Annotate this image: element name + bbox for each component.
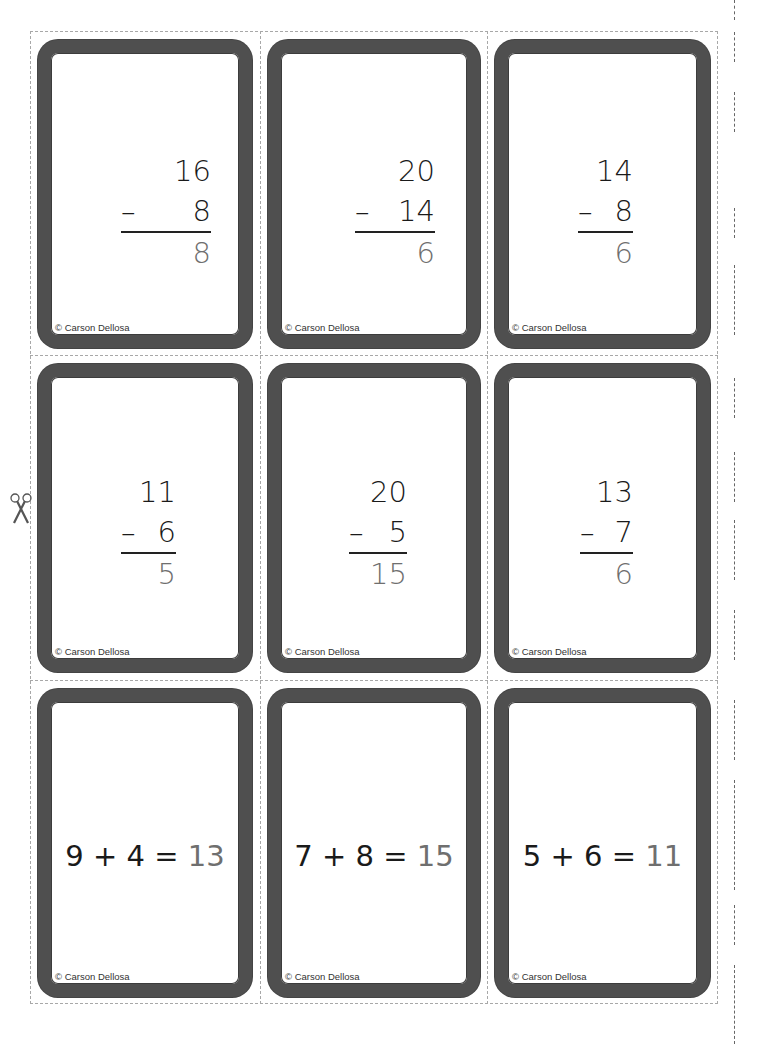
edge-cut-mark: [734, 520, 735, 580]
subtraction-problem: 14 –8 6: [578, 151, 633, 273]
subtraction-problem: 13 –7 6: [580, 472, 633, 594]
minus-sign: –: [349, 512, 364, 552]
copyright-text: © Carson Dellosa: [55, 322, 130, 333]
copyright-text: © Carson Dellosa: [512, 322, 587, 333]
answer: 11: [645, 839, 682, 873]
addition-problem: 7 + 8 = 15: [281, 839, 467, 873]
subtrahend: 6: [158, 512, 176, 552]
flash-card: 11 –6 5 © Carson Dellosa: [38, 364, 252, 672]
edge-cut-mark: [734, 610, 735, 660]
subtrahend: 14: [398, 191, 435, 231]
subtraction-problem: 16 –8 8: [121, 151, 211, 273]
copyright-text: © Carson Dellosa: [55, 646, 130, 657]
answer: 8: [121, 233, 211, 273]
scissors-icon: [8, 493, 34, 525]
minuend: 13: [580, 472, 633, 512]
edge-cut-mark: [734, 0, 735, 20]
flash-card: 16 –8 8 © Carson Dellosa: [38, 40, 252, 348]
edge-cut-mark: [734, 92, 735, 132]
flash-card: 5 + 6 = 11 © Carson Dellosa: [495, 689, 710, 997]
subtrahend: 8: [193, 191, 211, 231]
minuend: 11: [121, 472, 176, 512]
flash-card: 9 + 4 = 13 © Carson Dellosa: [38, 689, 252, 997]
answer: 6: [580, 554, 633, 594]
equation: 7 + 8 =: [294, 839, 407, 873]
minus-sign: –: [578, 191, 593, 231]
copyright-text: © Carson Dellosa: [512, 646, 587, 657]
addition-problem: 9 + 4 = 13: [51, 839, 239, 873]
flash-card: 7 + 8 = 15 © Carson Dellosa: [268, 689, 480, 997]
edge-cut-mark: [734, 32, 735, 62]
answer: 6: [578, 233, 633, 273]
minus-sign: –: [580, 512, 595, 552]
flash-card: 13 –7 6 © Carson Dellosa: [495, 364, 710, 672]
answer: 5: [121, 554, 176, 594]
copyright-text: © Carson Dellosa: [55, 971, 130, 982]
edge-cut-mark: [734, 265, 735, 335]
copyright-text: © Carson Dellosa: [285, 971, 360, 982]
flash-card: 14 –8 6 © Carson Dellosa: [495, 40, 710, 348]
minus-sign: –: [121, 512, 136, 552]
answer: 15: [349, 554, 407, 594]
minuend: 20: [355, 151, 435, 191]
edge-cut-mark: [734, 780, 735, 890]
addition-problem: 5 + 6 = 11: [508, 839, 697, 873]
subtrahend: 5: [389, 512, 407, 552]
answer: 6: [355, 233, 435, 273]
subtrahend: 8: [615, 191, 633, 231]
flash-card: 20 –14 6 © Carson Dellosa: [268, 40, 480, 348]
edge-cut-mark: [734, 452, 735, 502]
cut-line-vertical: [260, 31, 261, 1004]
edge-cut-mark: [734, 208, 735, 238]
cut-line-horizontal: [30, 680, 718, 681]
equation: 5 + 6 =: [523, 839, 636, 873]
answer: 13: [188, 839, 225, 873]
copyright-text: © Carson Dellosa: [285, 322, 360, 333]
cut-line-vertical: [487, 31, 488, 1004]
copyright-text: © Carson Dellosa: [285, 646, 360, 657]
cut-line-horizontal: [30, 355, 718, 356]
subtraction-problem: 20 –14 6: [355, 151, 435, 273]
answer: 15: [417, 839, 454, 873]
subtraction-problem: 20 –5 15: [349, 472, 407, 594]
edge-cut-mark: [734, 965, 735, 1044]
subtraction-problem: 11 –6 5: [121, 472, 176, 594]
copyright-text: © Carson Dellosa: [512, 971, 587, 982]
minus-sign: –: [121, 191, 136, 231]
edge-cut-mark: [734, 905, 735, 945]
edge-cut-mark: [734, 700, 735, 760]
equation: 9 + 4 =: [65, 839, 178, 873]
minuend: 14: [578, 151, 633, 191]
flash-card: 20 –5 15 © Carson Dellosa: [268, 364, 480, 672]
minus-sign: –: [355, 191, 370, 231]
edge-cut-mark: [734, 378, 735, 418]
minuend: 16: [121, 151, 211, 191]
minuend: 20: [349, 472, 407, 512]
subtrahend: 7: [615, 512, 633, 552]
